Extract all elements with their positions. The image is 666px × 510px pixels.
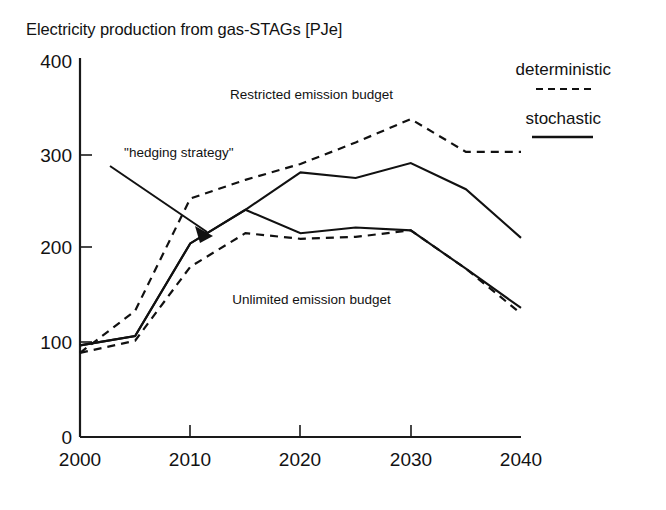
x-tick-label-2040: 2040	[500, 449, 542, 470]
y-tick-label-200: 200	[40, 237, 72, 258]
x-tick-label-2000: 2000	[59, 449, 101, 470]
line-chart-canvas: 400 300 200 100 0 2000 2010 2020 2030 20…	[0, 0, 666, 510]
legend-label-deterministic: deterministic	[516, 60, 612, 79]
hedging-strategy-arrow-line	[110, 166, 207, 232]
x-tick-label-2020: 2020	[279, 449, 321, 470]
annotation-hedging-strategy: "hedging strategy"	[124, 145, 234, 160]
annotation-restricted-emission-budget: Restricted emission budget	[230, 87, 393, 102]
chart-page: Electricity production from gas-STAGs [P…	[0, 0, 666, 510]
legend-label-stochastic: stochastic	[525, 109, 601, 128]
x-tick-label-2010: 2010	[169, 449, 211, 470]
y-tick-label-400: 400	[40, 51, 72, 72]
annotation-unlimited-emission-budget: Unlimited emission budget	[232, 292, 391, 307]
y-tick-label-300: 300	[40, 145, 72, 166]
hedging-strategy-arrow-head	[195, 226, 213, 243]
y-tick-label-0: 0	[61, 427, 72, 448]
y-tick-label-100: 100	[40, 332, 72, 353]
x-tick-label-2030: 2030	[390, 449, 432, 470]
